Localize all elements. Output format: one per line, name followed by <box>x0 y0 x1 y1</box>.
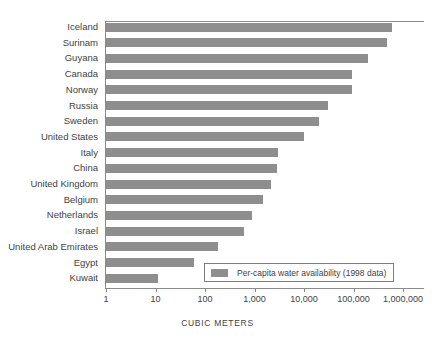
bar-row-label: Egypt <box>0 257 98 268</box>
bar-row: Netherlands <box>0 209 435 225</box>
bar <box>106 227 244 236</box>
bar-row-label: Iceland <box>0 21 98 32</box>
legend-swatch-icon <box>211 269 228 277</box>
bar-row-label: Netherlands <box>0 209 98 220</box>
x-axis-line <box>105 288 424 289</box>
bar <box>106 195 263 204</box>
bar-row: Canada <box>0 68 435 84</box>
x-axis-tick <box>354 288 355 292</box>
bar-row: China <box>0 162 435 178</box>
x-axis-tick-label: 100 <box>197 294 212 305</box>
bar-row-label: Belgium <box>0 194 98 205</box>
bar-row-label: Canada <box>0 68 98 79</box>
bar-row-label: Norway <box>0 84 98 95</box>
x-axis-tick-label: 1,000 <box>243 294 266 305</box>
bar <box>106 85 352 94</box>
bar <box>106 180 271 189</box>
x-axis-tick <box>106 288 107 292</box>
bar <box>106 54 368 63</box>
x-axis-tick <box>156 288 157 292</box>
bar-row: United Arab Emirates <box>0 241 435 257</box>
bar-row: Sweden <box>0 115 435 131</box>
bar-row-label: Kuwait <box>0 272 98 283</box>
bar-row-label: China <box>0 162 98 173</box>
bar-row: Russia <box>0 100 435 116</box>
bar <box>106 211 252 220</box>
x-axis-tick-label: 100,000 <box>337 294 370 305</box>
bar <box>106 258 194 267</box>
bar-row: Italy <box>0 147 435 163</box>
x-axis-tick <box>403 288 404 292</box>
bar-row-label: Sweden <box>0 115 98 126</box>
bar <box>106 274 158 283</box>
bar-row-label: Israel <box>0 225 98 236</box>
x-axis-tick-label: 1 <box>103 294 108 305</box>
bar-row: Belgium <box>0 194 435 210</box>
bar-row-label: Italy <box>0 147 98 158</box>
bar-row: United Kingdom <box>0 178 435 194</box>
x-axis-tick-label: 1,000,000 <box>383 294 423 305</box>
bar-row-label: Russia <box>0 100 98 111</box>
bar-row: Iceland <box>0 21 435 37</box>
chart-legend: Per-capita water availability (1998 data… <box>204 263 394 282</box>
x-axis-tick <box>205 288 206 292</box>
bar <box>106 38 387 47</box>
bar-row: Surinam <box>0 37 435 53</box>
bar-row: Guyana <box>0 52 435 68</box>
bar-row: Norway <box>0 84 435 100</box>
x-axis-tick-label: 10 <box>150 294 160 305</box>
bar-row: United States <box>0 131 435 147</box>
bar-row: Israel <box>0 225 435 241</box>
x-axis-tick-label: 10,000 <box>290 294 318 305</box>
x-axis-tick <box>304 288 305 292</box>
bar-row-label: Surinam <box>0 37 98 48</box>
bar <box>106 242 218 251</box>
bar-rows: IcelandSurinamGuyanaCanadaNorwayRussiaSw… <box>0 21 435 288</box>
legend-label: Per-capita water availability (1998 data… <box>237 268 386 278</box>
bar <box>106 101 328 110</box>
bar <box>106 23 392 32</box>
bar <box>106 148 278 157</box>
bar-row-label: Guyana <box>0 52 98 63</box>
bar-row-label: United States <box>0 131 98 142</box>
x-axis-title: CUBIC METERS <box>0 318 435 328</box>
bar <box>106 117 319 126</box>
x-axis-tick <box>255 288 256 292</box>
bar <box>106 132 304 141</box>
bar-row-label: United Arab Emirates <box>0 241 98 252</box>
water-availability-bar-chart: IcelandSurinamGuyanaCanadaNorwayRussiaSw… <box>0 0 435 348</box>
bar-row-label: United Kingdom <box>0 178 98 189</box>
bar <box>106 164 277 173</box>
bar <box>106 70 352 79</box>
